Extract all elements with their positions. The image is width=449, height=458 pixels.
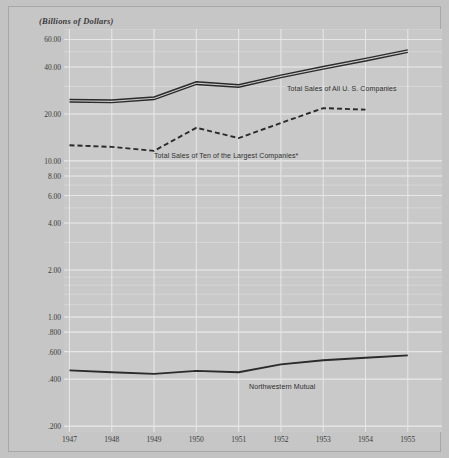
y-tick-p200: .200 xyxy=(13,422,61,431)
y-tick-1p00: 1.00 xyxy=(13,313,61,322)
series-label-0: Total Sales of All U. S. Companies xyxy=(287,85,397,92)
y-tick-8p00: 8.00 xyxy=(13,172,61,181)
y-tick-4p00: 4.00 xyxy=(13,219,61,228)
y-tick-p600: .600 xyxy=(13,347,61,356)
x-tick-1951: 1951 xyxy=(231,435,246,444)
x-tick-1955: 1955 xyxy=(400,435,415,444)
series-label-2: Northwestern Mutual xyxy=(249,383,315,390)
unit-caption: (Billions of Dollars) xyxy=(39,16,114,26)
x-tick-1953: 1953 xyxy=(316,435,331,444)
x-tick-1947: 1947 xyxy=(62,435,77,444)
y-tick-10p00: 10.00 xyxy=(13,156,61,165)
y-tick-20p00: 20.00 xyxy=(13,109,61,118)
chart-page: (Billions of Dollars) 60.0040.0020.0010.… xyxy=(0,0,449,458)
series-label-1: Total Sales of Ten of the Largest Compan… xyxy=(154,152,298,159)
x-tick-1948: 1948 xyxy=(104,435,119,444)
x-axis-tick-labels: 194719481949195019511952195319541955 xyxy=(64,435,442,451)
x-tick-1950: 1950 xyxy=(189,435,204,444)
plot-area: Total Sales of All U. S. CompaniesTotal … xyxy=(64,29,442,432)
chart-frame: (Billions of Dollars) 60.0040.0020.0010.… xyxy=(8,6,441,452)
x-tick-1954: 1954 xyxy=(358,435,373,444)
y-tick-40p00: 40.00 xyxy=(13,62,61,71)
y-tick-p400: .400 xyxy=(13,375,61,384)
x-tick-1952: 1952 xyxy=(273,435,288,444)
y-tick-2p00: 2.00 xyxy=(13,266,61,275)
y-tick-p800: .800 xyxy=(13,328,61,337)
y-tick-6p00: 6.00 xyxy=(13,191,61,200)
series-line-1 xyxy=(69,108,365,151)
x-tick-1949: 1949 xyxy=(147,435,162,444)
y-tick-60p00: 60.00 xyxy=(13,35,61,44)
y-axis-tick-labels: 60.0040.0020.0010.008.006.004.002.001.00… xyxy=(9,29,61,432)
